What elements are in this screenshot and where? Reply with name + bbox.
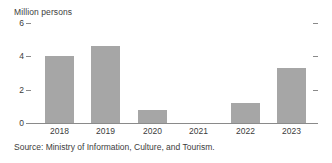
y-tick-label-6: 6 bbox=[12, 18, 24, 28]
x-tick-label-2023: 2023 bbox=[269, 126, 315, 136]
x-tick-label-2019: 2019 bbox=[83, 126, 129, 136]
x-axis-baseline bbox=[28, 123, 313, 124]
y-tick-label-2: 2 bbox=[12, 85, 24, 95]
x-tick-label-2021: 2021 bbox=[176, 126, 222, 136]
x-tick-label-2022: 2022 bbox=[223, 126, 269, 136]
bar-2018 bbox=[45, 56, 74, 124]
bar-2022 bbox=[231, 103, 260, 123]
bar-2020 bbox=[138, 110, 167, 123]
bar-2023 bbox=[277, 68, 306, 123]
y-tick-label-4: 4 bbox=[12, 51, 24, 61]
chart-figure: Million persons 6 4 2 0 2018 2019 2020 2… bbox=[0, 0, 332, 163]
y-tick-mark-right-4 bbox=[313, 56, 318, 57]
y-tick-mark-right-6 bbox=[313, 23, 318, 24]
y-tick-mark-right-0 bbox=[313, 123, 318, 124]
y-tick-mark-right-2 bbox=[313, 90, 318, 91]
x-tick-label-2020: 2020 bbox=[130, 126, 176, 136]
plot-area bbox=[30, 23, 310, 123]
source-note: Source: Ministry of Information, Culture… bbox=[14, 142, 215, 152]
chart-title: Million persons bbox=[14, 7, 72, 17]
bar-2019 bbox=[91, 46, 120, 123]
x-tick-label-2018: 2018 bbox=[37, 126, 83, 136]
y-tick-label-0: 0 bbox=[12, 118, 24, 128]
